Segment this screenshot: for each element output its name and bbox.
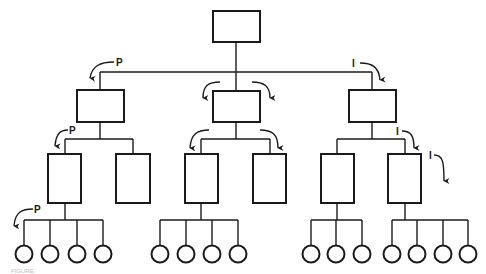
curved-arrow-icon [55, 130, 68, 146]
level3-box-6 [388, 154, 421, 203]
leaf-node [303, 246, 320, 263]
figure-caption: FIGURE [11, 268, 34, 274]
leaf-node [230, 246, 247, 263]
leaf-node [409, 246, 426, 263]
leaf-node [354, 246, 371, 263]
arrow-label-p-top: P [116, 57, 123, 68]
leaf-node [178, 246, 195, 263]
level2-box-right [349, 90, 396, 122]
curved-arrow-icon [90, 62, 114, 78]
curved-arrow-icon [434, 155, 444, 181]
arrow-label-i-mid: I [396, 126, 399, 137]
arrow-label-p-mid: P [69, 125, 76, 136]
arrow-label-i-top: I [352, 58, 355, 69]
hierarchy-diagram: P P P I I I FIGURE [0, 0, 486, 274]
level2-box-left [77, 90, 124, 122]
level3-box-5 [321, 154, 354, 203]
leaf-node [328, 246, 345, 263]
level2-box-center [213, 91, 260, 122]
level3-box-2 [116, 154, 150, 203]
leaf-node [435, 246, 452, 263]
level3-box-1 [48, 154, 81, 203]
leaf-node [152, 246, 169, 263]
leaf-node [42, 246, 59, 263]
leaf-node [69, 246, 86, 263]
arrow-label-p-bottom: P [34, 204, 41, 215]
arrow-label-i-right: I [429, 150, 432, 161]
level3-box-4 [253, 154, 286, 203]
leaf-node [16, 246, 33, 263]
leaf-node [204, 246, 221, 263]
root-box [213, 11, 260, 42]
leaf-node [460, 246, 477, 263]
level3-box-3 [185, 154, 218, 203]
leaf-node [95, 246, 112, 263]
leaf-node [384, 246, 401, 263]
